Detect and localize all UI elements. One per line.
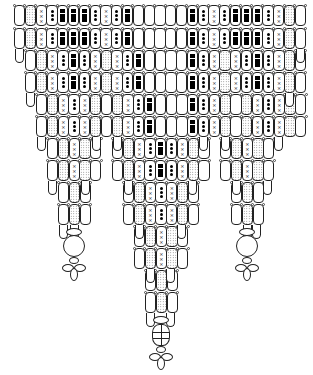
thread-node — [121, 115, 124, 118]
cross-marks-icon: ××× — [169, 208, 174, 221]
dots-icon — [266, 54, 271, 67]
black-squares-icon — [190, 9, 195, 22]
thread-node — [272, 4, 275, 7]
thread-node — [240, 49, 243, 52]
plain-bead — [144, 28, 155, 49]
plain-bead — [166, 94, 177, 115]
black-square-bead — [133, 72, 144, 93]
dots-icon — [136, 98, 141, 111]
fringe-drop-bead — [26, 93, 35, 107]
dotted-bead — [36, 50, 47, 71]
thread-node — [142, 49, 145, 52]
black-squares-icon — [255, 9, 260, 22]
right-pendant-petal-bottom — [243, 268, 251, 281]
thread-node — [100, 159, 103, 162]
thread-node — [272, 49, 275, 52]
plain-bead — [176, 50, 187, 71]
cross-marks-icon: ××× — [148, 186, 153, 199]
black-square-bead — [187, 94, 198, 115]
cross-bead: ××× — [79, 94, 90, 115]
cross-marks-icon: ××× — [211, 32, 216, 45]
cross-marks-icon: ××× — [148, 208, 153, 221]
bead-pattern-diagram: ××××××××××××××××××××××××××××××××××××××××… — [0, 0, 313, 375]
thread-node — [143, 159, 146, 162]
thread-node — [283, 49, 286, 52]
thread-node — [240, 159, 243, 162]
black-squares-icon — [60, 32, 65, 45]
thread-node — [207, 27, 210, 30]
thread-node — [208, 159, 211, 162]
thread-node — [45, 27, 48, 30]
cross-marks-icon: ××× — [50, 54, 55, 67]
thread-node — [121, 159, 124, 162]
thread-node — [251, 181, 254, 184]
cross-marks-icon: ××× — [233, 76, 238, 89]
dots-icon — [201, 9, 206, 22]
thread-node — [132, 159, 135, 162]
fringe-drop-bead — [124, 181, 133, 195]
black-squares-icon — [147, 98, 152, 111]
dotted-bead — [188, 160, 199, 181]
dots-icon — [201, 120, 206, 133]
black-squares-icon — [233, 32, 238, 45]
plain-bead — [144, 5, 155, 26]
black-square-bead — [187, 50, 198, 71]
black-square-bead — [155, 160, 166, 181]
dots-icon — [93, 9, 98, 22]
thread-node — [154, 137, 157, 140]
thread-node — [283, 4, 286, 7]
plain-bead — [230, 116, 241, 137]
dot-bead — [144, 160, 155, 181]
dot-bead — [262, 28, 273, 49]
thread-node — [164, 49, 167, 52]
thread-node — [133, 247, 136, 250]
plain-bead — [58, 182, 69, 203]
dot-bead — [68, 116, 79, 137]
plain-bead — [220, 160, 231, 181]
dots-icon — [93, 32, 98, 45]
black-squares-icon — [255, 54, 260, 67]
plain-bead — [145, 292, 156, 313]
thread-node — [77, 4, 80, 7]
dot-bead — [219, 28, 230, 49]
plain-bead — [14, 5, 25, 26]
cross-bead: ××× — [100, 5, 111, 26]
thread-node — [196, 49, 199, 52]
dot-bead — [198, 94, 209, 115]
thread-node — [88, 27, 91, 30]
plain-bead — [155, 94, 166, 115]
plain-bead — [230, 94, 241, 115]
dot-bead — [111, 5, 122, 26]
dotted-bead — [47, 94, 58, 115]
thread-node — [262, 203, 265, 206]
plain-bead — [58, 204, 69, 225]
thread-node — [176, 247, 179, 250]
cross-bead: ××× — [156, 226, 167, 247]
dotted-bead — [112, 94, 123, 115]
thread-node — [273, 159, 276, 162]
thread-node — [186, 203, 189, 206]
cross-marks-icon: ××× — [245, 142, 250, 155]
thread-node — [218, 115, 221, 118]
thread-node — [56, 71, 59, 74]
dot-bead — [198, 5, 209, 26]
thread-node — [207, 4, 210, 7]
dotted-bead — [90, 116, 101, 137]
dotted-bead — [231, 160, 242, 181]
thread-node — [78, 71, 81, 74]
thread-node — [251, 159, 254, 162]
plain-bead — [295, 28, 306, 49]
dotted-bead — [219, 50, 230, 71]
thread-node — [143, 93, 146, 96]
fringe-drop-bead — [146, 269, 155, 283]
thread-node — [175, 27, 178, 30]
plain-bead — [188, 204, 199, 225]
cross-bead: ××× — [111, 72, 122, 93]
thread-node — [186, 93, 189, 96]
plain-bead — [231, 204, 242, 225]
thread-node — [110, 93, 113, 96]
dotted-bead — [166, 226, 177, 247]
thread-node — [67, 203, 70, 206]
black-squares-icon — [190, 98, 195, 111]
dotted-bead — [284, 50, 295, 71]
